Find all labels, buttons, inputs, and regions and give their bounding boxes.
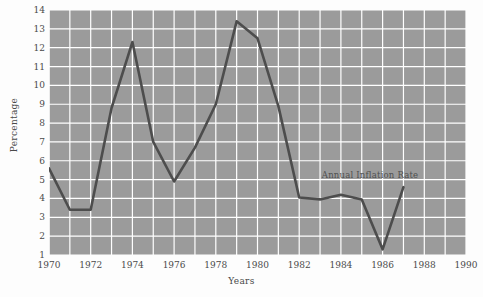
- x-axis-tick-label: 1988: [401, 260, 447, 270]
- y-axis-tick-label: 1: [5, 251, 45, 260]
- x-axis-tick-label: 1970: [26, 260, 72, 270]
- y-axis-tick-label: 3: [5, 213, 45, 222]
- x-axis-tick-label: 1972: [68, 260, 114, 270]
- x-axis-tick-label: 1980: [235, 260, 281, 270]
- plot-area: 1234567891011121314 19701972197419761978…: [49, 10, 466, 255]
- series-inline-label: Annual Inflation Rate: [322, 170, 419, 179]
- x-axis-tick-label: 1986: [360, 260, 406, 270]
- y-axis-tick-label: 2: [5, 232, 45, 241]
- x-axis-tick-label: 1976: [151, 260, 197, 270]
- y-axis-tick-label: 10: [5, 81, 45, 90]
- y-axis-tick-label: 14: [5, 6, 45, 15]
- y-axis-tick-label: 5: [5, 175, 45, 184]
- y-axis-tick-label: 9: [5, 100, 45, 109]
- x-axis-tick-label: 1974: [109, 260, 155, 270]
- series-line-annual-inflation-rate: [49, 10, 466, 255]
- x-axis-tick-label: 1982: [276, 260, 322, 270]
- y-axis-tick-label: 6: [5, 156, 45, 165]
- y-axis-tick-label: 7: [5, 137, 45, 146]
- x-axis-tick-label: 1990: [443, 260, 483, 270]
- y-axis-tick-label: 12: [5, 43, 45, 52]
- y-axis-tick-label: 4: [5, 194, 45, 203]
- y-axis-tick-label: 8: [5, 119, 45, 128]
- x-axis-tick-label: 1978: [193, 260, 239, 270]
- y-axis-tick-label: 13: [5, 24, 45, 33]
- x-axis-tick-label: 1984: [318, 260, 364, 270]
- chart-figure: Percentage 1234567891011121314 197019721…: [0, 0, 483, 297]
- x-axis-title: Years: [0, 276, 483, 286]
- y-axis-tick-label: 11: [5, 62, 45, 71]
